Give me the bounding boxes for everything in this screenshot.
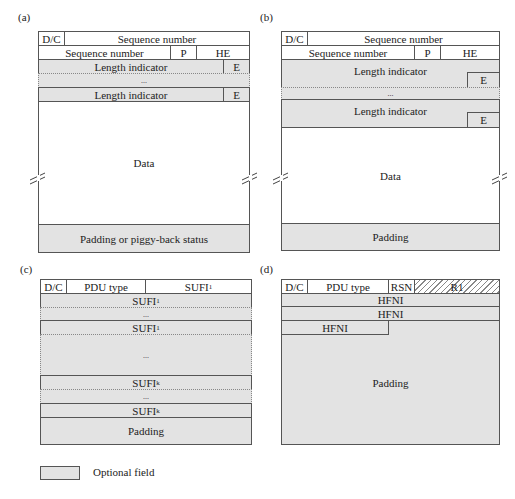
panel-c-label: (c) <box>20 263 32 275</box>
dc-field: D/C <box>40 279 67 294</box>
padding-field: Padding <box>40 417 252 445</box>
sufi-1-field: SUFI1 <box>145 279 252 294</box>
r1-reserved-field: R1 <box>414 279 500 294</box>
p-field: P <box>170 45 197 60</box>
break-mark-icon <box>492 171 508 185</box>
sufi-1-field: SUFI1 <box>40 293 252 308</box>
hfni-field: HFNI <box>281 320 389 335</box>
sequence-number-field: Sequence number <box>64 31 250 46</box>
panel-a-label: (a) <box>18 11 30 23</box>
legend-swatch <box>40 466 80 480</box>
panel-b-label: (b) <box>260 11 273 23</box>
sufi-k-field: SUFIk <box>40 403 252 418</box>
sufi-1-field: SUFI1 <box>40 320 252 335</box>
data-field: Data <box>38 101 250 225</box>
e-field: E <box>467 72 500 88</box>
length-indicator-field: Length indicator <box>38 87 224 102</box>
padding-field: Padding or piggy-back status <box>38 224 250 253</box>
dc-field: D/C <box>38 31 65 46</box>
he-field: HE <box>196 45 250 60</box>
sequence-number-field: Sequence number <box>281 45 415 60</box>
panel-d-label: (d) <box>260 263 273 275</box>
e-field: E <box>467 112 500 128</box>
hfni-field: HFNI <box>281 293 500 307</box>
data-field: Data <box>281 127 500 224</box>
pdu-type-field: PDU type <box>66 279 146 294</box>
e-field: E <box>223 59 250 74</box>
pdu-type-field: PDU type <box>307 279 389 294</box>
ellipsis-row: ... <box>38 73 250 88</box>
hfni-field: HFNI <box>281 306 500 321</box>
ellipsis-row: ... <box>40 334 252 376</box>
p-field: P <box>414 45 441 60</box>
padding-field: Padding <box>281 223 500 251</box>
e-field: E <box>223 87 250 102</box>
sequence-number-field: Sequence number <box>38 45 171 60</box>
dc-field: D/C <box>281 279 308 294</box>
sequence-number-field: Sequence number <box>307 31 500 46</box>
ellipsis-row: ... <box>40 307 252 321</box>
sufi-k-field: SUFIk <box>40 375 252 390</box>
break-mark-icon <box>273 171 289 185</box>
padding-field: Padding <box>281 320 500 445</box>
he-field: HE <box>440 45 500 60</box>
ellipsis-row: ... <box>40 389 252 404</box>
dc-field: D/C <box>281 31 308 46</box>
legend-label: Optional field <box>93 466 154 478</box>
break-mark-icon <box>30 171 46 185</box>
break-mark-icon <box>242 171 258 185</box>
rsn-field: RSN <box>388 279 415 294</box>
length-indicator-field: Length indicator <box>38 59 224 74</box>
